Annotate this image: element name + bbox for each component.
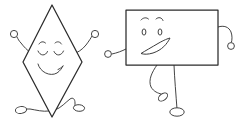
rectangle-right-eye-icon <box>158 29 162 35</box>
diamond-left-foot-icon <box>15 106 27 114</box>
diamond-body-shape <box>23 5 82 117</box>
rectangle-right-leg-line <box>174 65 177 109</box>
rectangle-right-arm-line <box>218 26 232 42</box>
diamond-left-hand-icon <box>10 30 17 37</box>
diamond-right-arm <box>73 30 99 54</box>
rectangle-character <box>105 10 235 116</box>
rectangle-right-foot-icon <box>170 108 184 116</box>
rectangle-left-arm <box>105 49 126 57</box>
rectangle-right-leg <box>170 65 184 116</box>
diamond-left-arm <box>10 30 31 53</box>
rectangle-left-hand-icon <box>105 51 112 58</box>
diamond-left-leg-line <box>25 109 49 111</box>
drawing-canvas: Two cartoon shape characters <box>0 0 239 124</box>
rectangle-right-arm <box>218 26 234 49</box>
rectangle-body-shape <box>126 10 218 65</box>
rectangle-left-arm-line <box>112 49 126 54</box>
shape-characters-illustration: Two cartoon shape characters <box>0 0 239 124</box>
diamond-left-leg <box>15 106 49 114</box>
rectangle-right-hand-icon <box>228 43 235 50</box>
rectangle-left-leg-line <box>150 65 161 94</box>
diamond-character <box>10 5 98 117</box>
diamond-right-hand-icon <box>91 30 98 37</box>
rectangle-left-eye-icon <box>142 29 146 35</box>
diamond-right-foot-icon <box>73 104 85 111</box>
rectangle-left-leg <box>150 65 169 103</box>
